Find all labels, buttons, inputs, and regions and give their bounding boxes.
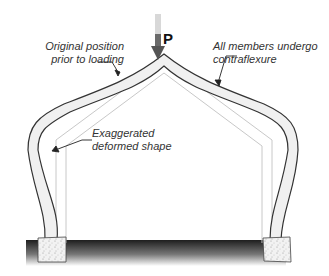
right-footing [263, 237, 291, 262]
contraflexure-label: All members undergo contraflexure [213, 40, 318, 66]
deformed-shape-label: Exaggerated deformed shape [92, 127, 172, 153]
original-position-label: Original position prior to loading [12, 40, 124, 66]
left-footing [38, 237, 66, 262]
load-label: P [163, 30, 173, 47]
